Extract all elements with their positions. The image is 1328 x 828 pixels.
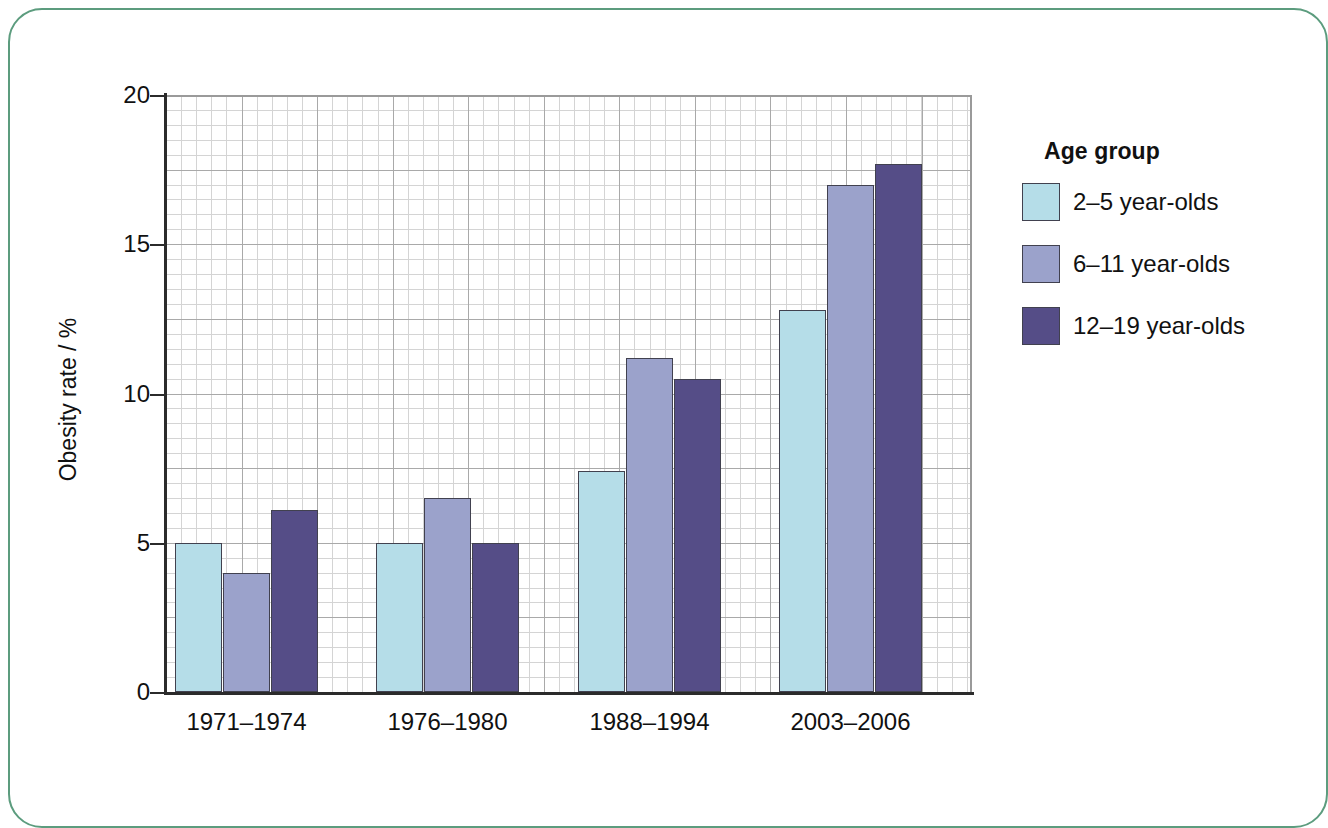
chart-legend: Age group 2–5 year-olds6–11 year-olds12–… bbox=[1022, 138, 1292, 357]
plot-right-border bbox=[970, 95, 972, 692]
bar bbox=[578, 471, 625, 692]
legend-label: 12–19 year-olds bbox=[1073, 312, 1245, 340]
y-tick-label: 20 bbox=[90, 81, 150, 109]
x-axis-line bbox=[164, 692, 974, 695]
legend-swatch bbox=[1022, 307, 1060, 345]
bar bbox=[424, 498, 471, 692]
y-tick-label: 15 bbox=[90, 230, 150, 258]
y-tick-mark bbox=[150, 244, 165, 246]
plot-area bbox=[166, 95, 972, 692]
legend-swatch bbox=[1022, 245, 1060, 283]
legend-item: 6–11 year-olds bbox=[1022, 233, 1292, 295]
bar bbox=[223, 573, 270, 692]
y-axis-title: Obesity rate / % bbox=[55, 270, 82, 530]
y-tick-label: 5 bbox=[90, 529, 150, 557]
bar bbox=[472, 543, 519, 692]
bar bbox=[827, 185, 874, 692]
legend-label: 6–11 year-olds bbox=[1073, 250, 1230, 278]
bar bbox=[875, 164, 922, 692]
legend-swatch bbox=[1022, 183, 1060, 221]
y-tick-mark bbox=[150, 95, 165, 97]
x-tick-label: 2003–2006 bbox=[721, 708, 981, 736]
bar bbox=[779, 310, 826, 692]
bar bbox=[674, 379, 721, 692]
bar bbox=[271, 510, 318, 692]
bar bbox=[175, 543, 222, 692]
legend-item: 12–19 year-olds bbox=[1022, 295, 1292, 357]
legend-label: 2–5 year-olds bbox=[1073, 188, 1218, 216]
legend-item: 2–5 year-olds bbox=[1022, 171, 1292, 233]
legend-entries: 2–5 year-olds6–11 year-olds12–19 year-ol… bbox=[1022, 171, 1292, 357]
legend-title: Age group bbox=[1044, 138, 1292, 165]
bar bbox=[626, 358, 673, 692]
y-tick-label: 10 bbox=[90, 380, 150, 408]
bar bbox=[376, 543, 423, 692]
y-tick-mark bbox=[150, 692, 165, 694]
y-tick-mark bbox=[150, 543, 165, 545]
y-tick-mark bbox=[150, 394, 165, 396]
plot-top-border bbox=[166, 95, 972, 97]
y-tick-label: 0 bbox=[90, 678, 150, 706]
